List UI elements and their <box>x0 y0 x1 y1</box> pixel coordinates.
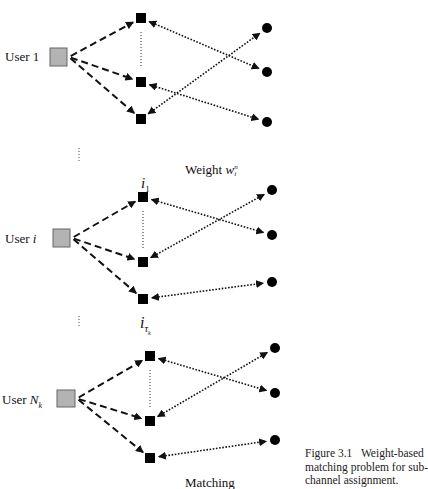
matching-double-arrow <box>159 441 266 456</box>
resource-circle-icon <box>262 117 272 127</box>
dashed-assignment-arrow <box>79 361 142 398</box>
figure-caption: Figure 3.1 Weight-based matching problem… <box>305 447 428 488</box>
user-index: i <box>33 231 37 246</box>
dashed-assignment-arrow <box>71 58 135 113</box>
user-box-icon <box>57 390 75 407</box>
weight-label: Weight wni <box>185 163 238 178</box>
user-index: 1 <box>33 49 40 64</box>
dashed-assignment-arrow <box>79 400 143 453</box>
matching-double-arrow <box>148 33 259 113</box>
dashed-assignment-arrow <box>74 239 137 293</box>
resource-circle-icon <box>270 388 280 398</box>
resource-circle-icon <box>270 343 280 353</box>
resource-circle-icon <box>267 277 277 287</box>
caption-number: Figure 3.1 <box>305 447 352 459</box>
resource-circle-icon <box>267 230 277 240</box>
user-label-prefix: User <box>5 49 33 64</box>
subchannel-square-icon <box>138 294 148 304</box>
resource-circle-icon <box>262 23 272 33</box>
matching-double-arrow <box>150 85 259 120</box>
subchannel-square-icon <box>138 257 148 267</box>
weight-var: w <box>225 162 234 177</box>
resource-circle-icon <box>270 435 280 445</box>
matching-label: Matching <box>185 476 235 489</box>
weight-sub: i <box>234 170 236 178</box>
resource-circle-icon <box>262 67 272 77</box>
weight-text: Weight <box>185 162 225 177</box>
dashed-assignment-arrow <box>74 202 135 237</box>
tau-sub: k <box>148 330 151 336</box>
matching-double-arrow <box>152 283 263 298</box>
subchannel-last-label: iτk <box>140 315 151 336</box>
subchannel-sub: 1 <box>145 184 150 194</box>
subchannel-square-icon <box>145 416 155 426</box>
dashed-assignment-arrow <box>74 239 135 259</box>
user-box-icon <box>50 48 67 66</box>
user-label-prefix: User <box>2 392 30 407</box>
user-nk-label: User Nk <box>2 393 42 410</box>
subchannel-first-label: i1 <box>141 176 150 194</box>
user-index-sub: k <box>38 401 42 410</box>
matching-diagram <box>0 0 428 489</box>
user-1-label: User 1 <box>5 50 39 63</box>
subchannel-square-icon <box>136 77 146 87</box>
subchannel-square-icon <box>136 13 146 23</box>
user-label-prefix: User <box>5 231 33 246</box>
subchannel-sub: τk <box>144 323 150 334</box>
subchannel-square-icon <box>136 114 146 124</box>
dashed-assignment-arrow <box>71 22 133 56</box>
resource-circle-icon <box>267 185 277 195</box>
matching-double-arrow <box>158 353 267 417</box>
user-box-icon <box>53 229 70 247</box>
weight-indices: ni <box>234 164 238 178</box>
subchannel-square-icon <box>145 453 155 463</box>
subchannel-square-icon <box>145 351 155 361</box>
dashed-assignment-arrow <box>71 58 133 79</box>
user-i-label: User i <box>5 232 36 245</box>
